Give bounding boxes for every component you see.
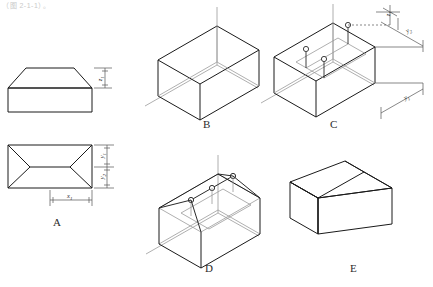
- figure-c-locating-points: [261, 4, 375, 117]
- figure-e-finished-solid: [290, 161, 392, 234]
- dim-label-x1-plan: x1: [67, 192, 72, 201]
- figure-label-c: C: [330, 118, 337, 130]
- dim-label-y1-plan: y1: [98, 153, 107, 158]
- figure-b-isometric-box: [145, 7, 259, 120]
- dim-label-z1-front: z1: [96, 76, 105, 81]
- technical-drawing-figure: （图 2-1-1）。: [0, 0, 433, 287]
- figure-a-plan-view: [8, 145, 92, 188]
- diagram-canvas: [0, 0, 433, 287]
- figure-label-d: D: [205, 262, 213, 274]
- figure-a-front-elevation: [8, 68, 92, 112]
- figure-c-dimensions: [348, 5, 423, 119]
- dim-label-y2-plan: y2: [98, 174, 107, 179]
- figure-label-b: B: [203, 118, 210, 130]
- figure-label-e: E: [350, 262, 357, 274]
- figure-d-ridge-and-hips: [146, 155, 260, 268]
- figure-label-a: A: [53, 216, 61, 228]
- dim-label-z1-iso: z1: [384, 11, 393, 16]
- figure-a-dim-y1-y2: [94, 145, 114, 188]
